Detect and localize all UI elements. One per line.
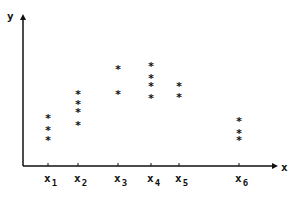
data-point-star-icon: * <box>148 80 155 93</box>
x-tick-label: x6 <box>235 172 248 188</box>
data-point-star-icon: * <box>75 119 82 132</box>
data-point-star-icon: * <box>45 112 52 125</box>
x-tick-label: x3 <box>114 172 127 188</box>
scatter-chart: y x x1x2x3x4x5x6 ****************** <box>0 0 299 202</box>
data-point-star-icon: * <box>75 106 82 119</box>
y-axis-label: y <box>7 10 14 23</box>
data-points: ****************** <box>45 60 243 147</box>
data-point-star-icon: * <box>236 134 243 147</box>
data-point-star-icon: * <box>236 115 243 128</box>
data-point-star-icon: * <box>148 60 155 73</box>
x-axis-arrow-icon <box>272 163 278 169</box>
x-tick-label: x1 <box>44 172 57 188</box>
data-point-star-icon: * <box>176 91 183 104</box>
x-tick-label: x4 <box>147 172 161 188</box>
data-point-star-icon: * <box>115 88 122 101</box>
y-axis-arrow-icon <box>20 14 26 20</box>
data-point-star-icon: * <box>45 134 52 147</box>
data-point-star-icon: * <box>115 63 122 76</box>
data-point-star-icon: * <box>148 92 155 105</box>
x-axis-label: x <box>281 161 288 174</box>
x-tick-label: x2 <box>74 172 87 188</box>
x-tick-label: x5 <box>175 172 188 188</box>
